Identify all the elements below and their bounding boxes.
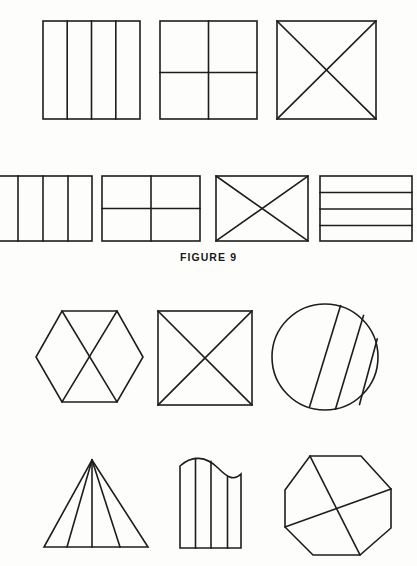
chord-1 (310, 456, 360, 555)
fan-line-3 (92, 460, 120, 547)
rectangle-three-horizontal-bands (320, 176, 412, 241)
square-four-vertical-strips (43, 21, 140, 119)
square-with-x-diagonals-lower (158, 311, 252, 405)
chord-2 (336, 316, 364, 410)
shape-outline (0, 176, 92, 241)
chord-2 (285, 489, 391, 527)
hexagon-with-bowtie-diagonals (36, 311, 143, 402)
ink-group (0, 21, 412, 555)
chord-3 (360, 339, 378, 405)
figure-page: FIGURE 9 (0, 0, 417, 566)
rectangle-four-vertical-strips-cropped (0, 176, 92, 241)
triangle-with-fan-lines (44, 460, 148, 547)
square-with-x-diagonals-top (277, 21, 376, 119)
figure-illustration-canvas (0, 0, 417, 566)
chord-1 (310, 306, 341, 407)
wavy-top-shape-with-vertical-lines (180, 458, 241, 548)
circle-with-three-slanted-chords (272, 304, 378, 410)
rectangle-quartered-grid (102, 176, 200, 241)
octagon-with-crossing-chords (285, 456, 391, 555)
rectangle-with-x-diagonals (216, 176, 308, 241)
square-quartered-grid (160, 21, 257, 119)
fan-line-1 (67, 460, 92, 547)
shape-outline (285, 456, 391, 555)
figure-caption: FIGURE 9 (0, 251, 417, 263)
